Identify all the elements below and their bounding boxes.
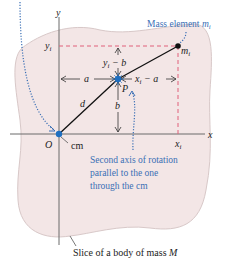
slice-pointer-line bbox=[70, 236, 76, 246]
a-label: a bbox=[84, 73, 89, 84]
mass-element-point bbox=[175, 43, 181, 49]
x-axis-label: x bbox=[207, 129, 213, 140]
b-label: b bbox=[115, 100, 120, 111]
cm-label: cm bbox=[71, 140, 83, 151]
origin-cm-point bbox=[56, 131, 62, 137]
p-label: P bbox=[121, 83, 128, 94]
second-axis-caption-line2: parallel to the one bbox=[90, 168, 158, 178]
slice-caption: Slice of a body of mass M bbox=[73, 247, 178, 258]
second-axis-caption-line3: through the cm bbox=[90, 181, 148, 191]
y-axis-label: y bbox=[55, 7, 61, 18]
second-axis-caption-line1: Second axis of rotation bbox=[90, 155, 178, 165]
parallel-axis-diagram: y x O cm yi xi a b d P yi − b xi − a mi … bbox=[0, 0, 229, 266]
origin-label: O bbox=[45, 139, 52, 150]
